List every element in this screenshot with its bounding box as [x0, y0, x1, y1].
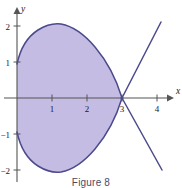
intersection-point-marker: [120, 96, 123, 99]
y-tick-label-neg1: −1: [0, 130, 10, 140]
y-axis-arrow: [14, 7, 21, 14]
x-tick-label-4: 4: [155, 104, 160, 114]
figure-container: 1 2 3 4 2 1 −1 −2 y x Figure 8: [0, 0, 182, 188]
y-tick-label-1: 1: [6, 58, 11, 68]
x-tick-label-1: 1: [50, 104, 55, 114]
x-tick-label-2: 2: [85, 104, 90, 114]
x-tick-label-3: 3: [120, 104, 125, 114]
plot-svg: 1 2 3 4 2 1 −1 −2 y x: [0, 0, 182, 188]
x-axis-arrow: [167, 95, 174, 102]
y-tick-label-2: 2: [6, 22, 11, 32]
y-axis-label: y: [20, 4, 26, 14]
x-axis-label: x: [175, 86, 181, 96]
line-rising: [122, 22, 161, 98]
y-tick-label-neg2: −2: [0, 166, 10, 176]
figure-caption: Figure 8: [0, 176, 182, 188]
